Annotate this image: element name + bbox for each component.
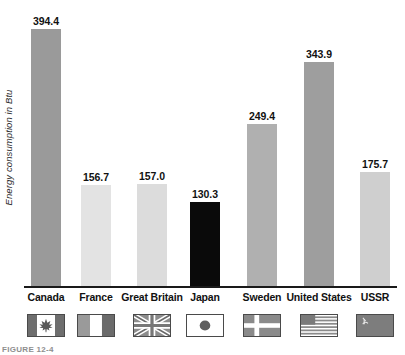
united-states-flag-icon [300,314,338,337]
bar-column: 175.7 [360,6,390,287]
category-labels: CanadaFranceGreat BritainJapanSwedenUnit… [0,291,405,307]
flag-row [0,314,405,340]
figure-caption: FIGURE 12-4 [2,345,54,355]
canada-flag-icon [27,314,65,337]
y-axis-title-wrap: Energy consumption in Btu [0,70,16,230]
flag-cell [26,314,66,337]
bar-column: 130.3 [190,6,220,287]
bar-chart: Energy consumption in Btu 394.4156.7157.… [0,0,405,355]
bar-value-label: 249.4 [249,110,275,122]
bar-value-label: 394.4 [33,15,59,27]
flag-cell [132,314,172,337]
bar-column: 343.9 [304,6,334,287]
sweden-flag-icon [243,314,281,337]
bar-value-label: 156.7 [83,171,109,183]
japan-flag-icon [186,314,224,337]
plot-area: 394.4156.7157.0130.3249.4343.9175.7 [24,6,405,287]
bar [190,202,220,287]
flag-cell [355,314,395,337]
category-label-japan: Japan [175,291,235,303]
ussr-flag-icon [356,314,394,337]
bar-column: 157.0 [137,6,167,287]
bar-value-label: 175.7 [362,158,388,170]
x-axis-baseline [24,286,397,288]
bar [81,185,111,287]
flag-cell [76,314,116,337]
bar [304,62,334,287]
bar-value-label: 157.0 [139,170,165,182]
y-axis-title: Energy consumption in Btu [3,68,14,228]
bar [31,29,61,287]
flag-cell [185,314,225,337]
bar-column: 156.7 [81,6,111,287]
france-flag-icon [77,314,115,337]
flag-cell [299,314,339,337]
bar [360,172,390,287]
bar-column: 394.4 [31,6,61,287]
bar-value-label: 343.9 [306,48,332,60]
bar [137,184,167,287]
bar-column: 249.4 [247,6,277,287]
flag-cell [242,314,282,337]
bar [247,124,277,287]
bar-value-label: 130.3 [192,188,218,200]
great-britain-flag-icon [133,314,171,337]
category-label-ussr: USSR [345,291,405,303]
